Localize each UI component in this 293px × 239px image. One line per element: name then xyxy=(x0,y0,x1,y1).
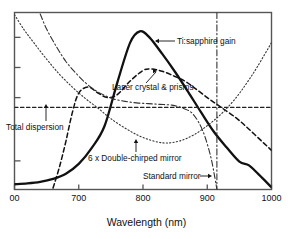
chart-plot-area xyxy=(0,0,293,239)
y-axis-ticks xyxy=(15,37,21,161)
x-tick-label-600: 00 xyxy=(2,193,28,203)
annotation-laser-crystal-prisms: Laser crystal & prisms xyxy=(112,83,194,91)
curve-ti-sapphire-gain xyxy=(15,31,272,187)
x-tick-label-900: 900 xyxy=(194,193,220,203)
annotation-standard-mirror: Standard mirror xyxy=(143,172,201,180)
x-axis-title: Wavelength (nm) xyxy=(0,216,293,228)
arrowhead-double-chirped-mirror xyxy=(134,139,138,143)
x-tick-label-1000: 1000 xyxy=(259,193,285,203)
arrowhead-standard-mirror xyxy=(208,174,212,178)
annotation-ti-sapphire-gain: Ti:sapphire gain xyxy=(177,37,236,45)
x-tick-label-700: 700 xyxy=(66,193,92,203)
x-tick-label-800: 800 xyxy=(130,193,156,203)
arrowhead-ti-sapphire-gain xyxy=(155,39,159,43)
annotation-double-chirped-mirror: 6 x Double-chirped mirror xyxy=(88,154,182,162)
dispersion-chart-figure: Ti:sapphire gain Laser crystal & prisms … xyxy=(0,0,293,239)
arrowhead-total-dispersion xyxy=(44,104,48,108)
annotation-total-dispersion: Total dispersion xyxy=(6,123,64,131)
